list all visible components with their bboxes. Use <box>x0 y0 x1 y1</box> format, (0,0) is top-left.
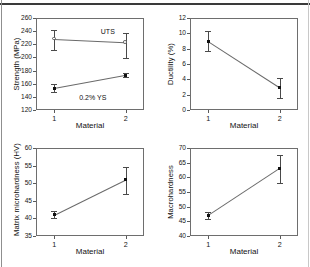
y-tick-mark-strength <box>33 18 36 19</box>
error-bar-cap-matrix-microhardness <box>51 218 57 219</box>
y-tick-mark-strength <box>33 31 36 32</box>
error-bar-cap-macrohardness <box>205 219 211 220</box>
figure-four-panel-plot: 12014016018020022024026012Strength (MPa)… <box>0 0 310 267</box>
y-tick-mark-strength <box>33 44 36 45</box>
data-point-marker-matrix-microhardness <box>124 178 127 181</box>
error-bar-cap-strength <box>51 50 57 51</box>
y-tick-mark-macrohardness <box>187 236 190 237</box>
error-bar-strength <box>126 33 127 58</box>
x-tick-mark-strength <box>126 110 127 113</box>
y-tick-mark-matrix-microhardness <box>33 183 36 184</box>
error-bar-cap-matrix-microhardness <box>123 194 129 195</box>
x-tick-mark-macrohardness <box>208 236 209 239</box>
x-tick-mark-ductility <box>280 110 281 113</box>
error-bar-cap-ductility <box>205 31 211 32</box>
x-tick-mark-matrix-microhardness <box>126 236 127 239</box>
y-tick-mark-ductility <box>187 95 190 96</box>
series-annotation-ys: 0.2% YS <box>79 94 106 101</box>
data-point-marker-matrix-microhardness <box>53 213 56 216</box>
error-bar-cap-ductility <box>277 78 283 79</box>
error-bar-cap-strength <box>51 30 57 31</box>
plot-frame-matrix-microhardness <box>36 148 144 236</box>
error-bar-cap-macrohardness <box>277 183 283 184</box>
y-tick-mark-matrix-microhardness <box>33 166 36 167</box>
y-tick-mark-macrohardness <box>187 177 190 178</box>
y-tick-mark-ductility <box>187 64 190 65</box>
y-tick-mark-macrohardness <box>187 192 190 193</box>
y-tick-mark-strength <box>33 84 36 85</box>
data-point-marker-macrohardness <box>278 167 281 170</box>
y-tick-mark-macrohardness <box>187 163 190 164</box>
error-bar-cap-matrix-microhardness <box>123 167 129 168</box>
data-point-marker-strength <box>124 74 127 77</box>
error-bar-cap-strength <box>51 84 57 85</box>
x-tick-mark-macrohardness <box>280 236 281 239</box>
x-tick-mark-strength <box>54 110 55 113</box>
y-tick-mark-strength <box>33 110 36 111</box>
y-tick-mark-ductility <box>187 49 190 50</box>
error-bar-cap-macrohardness <box>205 212 211 213</box>
y-tick-mark-macrohardness <box>187 221 190 222</box>
page-right-rule <box>308 0 309 267</box>
error-bar-cap-strength <box>123 33 129 34</box>
y-tick-mark-strength <box>33 97 36 98</box>
data-point-marker-strength <box>52 37 56 41</box>
x-axis-label-macrohardness: Material <box>190 247 298 256</box>
x-axis-label-matrix-microhardness: Material <box>36 247 144 256</box>
error-bar-cap-matrix-microhardness <box>51 211 57 212</box>
x-tick-mark-matrix-microhardness <box>54 236 55 239</box>
error-bar-strength <box>54 30 55 50</box>
y-tick-mark-ductility <box>187 33 190 34</box>
y-axis-label-macrohardness: Macrohardness <box>166 148 175 236</box>
error-bar-cap-strength <box>123 77 129 78</box>
error-bar-cap-ductility <box>205 51 211 52</box>
data-point-marker-macrohardness <box>207 214 210 217</box>
x-tick-mark-ductility <box>208 110 209 113</box>
y-axis-label-ductility: Ductility (%) <box>166 18 175 110</box>
page-left-rule <box>1 0 2 267</box>
x-axis-label-ductility: Material <box>190 121 298 130</box>
y-tick-mark-ductility <box>187 18 190 19</box>
y-tick-mark-matrix-microhardness <box>33 236 36 237</box>
y-tick-mark-strength <box>33 57 36 58</box>
y-tick-mark-macrohardness <box>187 148 190 149</box>
data-point-marker-ductility <box>278 86 281 89</box>
data-point-marker-ductility <box>207 40 210 43</box>
y-tick-mark-macrohardness <box>187 207 190 208</box>
y-tick-mark-matrix-microhardness <box>33 148 36 149</box>
data-point-marker-strength <box>53 87 56 90</box>
error-bar-cap-macrohardness <box>277 155 283 156</box>
y-tick-mark-ductility <box>187 79 190 80</box>
error-bar-cap-strength <box>123 58 129 59</box>
y-tick-mark-ductility <box>187 110 190 111</box>
y-tick-mark-strength <box>33 71 36 72</box>
error-bar-cap-strength <box>51 92 57 93</box>
page-top-rule <box>0 3 310 5</box>
y-tick-mark-matrix-microhardness <box>33 201 36 202</box>
y-axis-label-matrix-microhardness: Matrix microhardness (HV) <box>12 148 21 236</box>
data-point-marker-strength <box>123 40 127 44</box>
y-axis-label-strength: Strength (MPa) <box>12 18 21 110</box>
y-tick-mark-matrix-microhardness <box>33 218 36 219</box>
series-annotation-uts: UTS <box>101 28 115 35</box>
error-bar-cap-ductility <box>277 98 283 99</box>
x-axis-label-strength: Material <box>36 121 144 130</box>
